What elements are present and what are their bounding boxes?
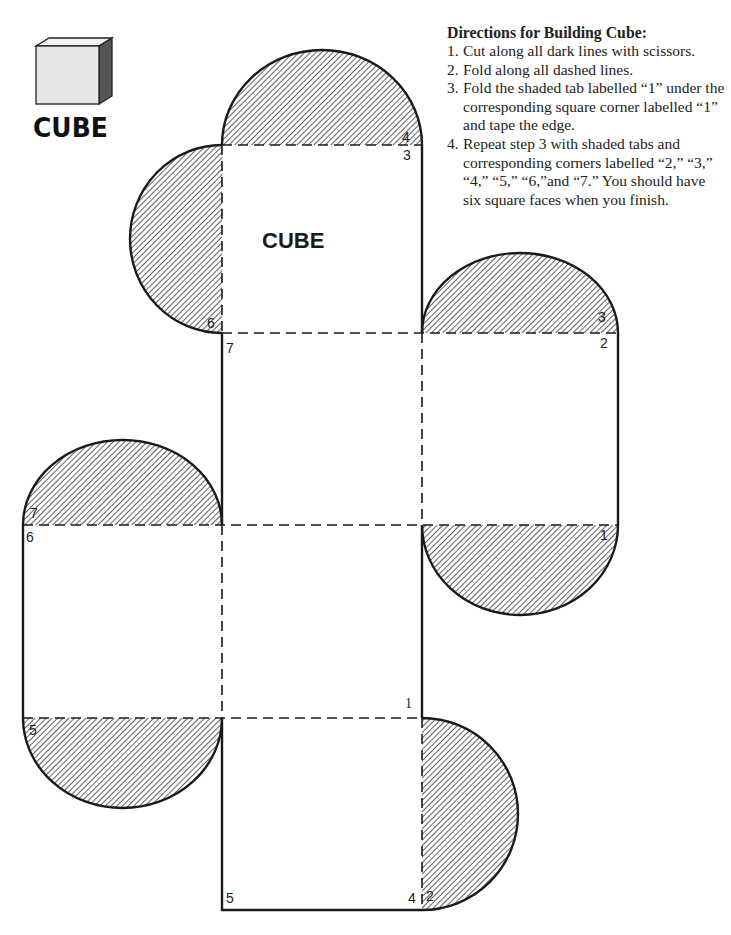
- step-text: Repeat step 3 with shaded tabs and corre…: [463, 135, 713, 208]
- tab-top: [222, 50, 422, 145]
- tab-label: 3: [598, 310, 606, 324]
- tab-label: 4: [402, 130, 410, 144]
- tab-right-face-bottom: [422, 525, 618, 615]
- tab-label: 6: [207, 316, 215, 330]
- step-number: 1.: [447, 42, 459, 61]
- corner-label: 1: [405, 697, 412, 711]
- tab-left-top-face: [130, 145, 222, 333]
- logo-title: CUBE: [33, 113, 108, 143]
- corner-label: 5: [226, 891, 234, 905]
- directions-panel: Directions for Building Cube: 1.Cut alon…: [447, 23, 731, 209]
- tab-label: 2: [426, 889, 434, 903]
- direction-step: 1.Cut along all dark lines with scissors…: [463, 42, 731, 61]
- tab-right-face-top: [422, 253, 618, 333]
- corner-label: 7: [226, 341, 234, 355]
- tab-label: 5: [29, 723, 37, 737]
- step-text: Fold the shaded tab labelled “1” under t…: [463, 79, 724, 133]
- tab-left-face-top: [23, 440, 222, 525]
- face-title: CUBE: [262, 228, 324, 254]
- corner-label: 2: [600, 336, 608, 350]
- step-number: 2.: [447, 61, 459, 80]
- corner-label: 6: [26, 530, 34, 544]
- directions-title: Directions for Building Cube:: [447, 23, 731, 42]
- direction-step: 2.Fold along all dashed lines.: [463, 61, 731, 80]
- tab-left-face-bottom: [23, 718, 222, 808]
- tab-label: 1: [600, 528, 608, 542]
- step-text: Cut along all dark lines with scissors.: [463, 42, 695, 59]
- corner-label: 4: [408, 891, 416, 905]
- direction-step: 3.Fold the shaded tab labelled “1” under…: [463, 79, 725, 135]
- direction-step: 4.Repeat step 3 with shaded tabs and cor…: [463, 135, 725, 209]
- directions-steps: 1.Cut along all dark lines with scissors…: [447, 42, 731, 209]
- step-text: Fold along all dashed lines.: [463, 61, 633, 78]
- tab-bottom-right: [422, 718, 518, 910]
- corner-label: 3: [403, 148, 411, 162]
- step-number: 3.: [447, 79, 459, 98]
- step-number: 4.: [447, 135, 459, 154]
- tab-label: 7: [30, 506, 38, 520]
